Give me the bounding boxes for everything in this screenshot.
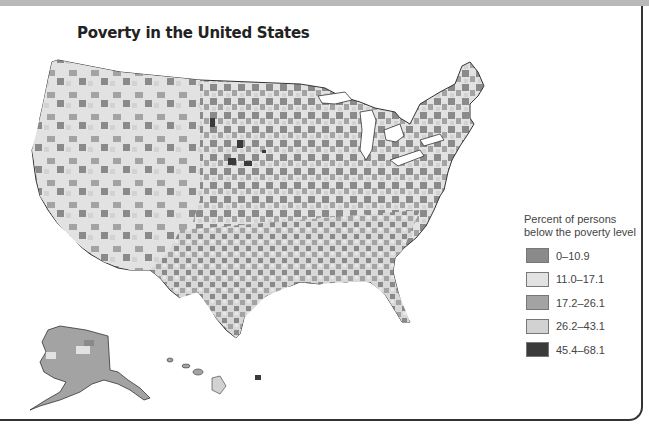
legend-swatch: [526, 272, 549, 287]
us-poverty-map: [0, 40, 520, 430]
legend-item: 26.2–43.1: [526, 318, 641, 335]
legend-item: 45.4–68.1: [526, 341, 641, 358]
legend: Percent of persons below the poverty lev…: [526, 213, 641, 365]
legend-swatch: [526, 342, 549, 357]
legend-item: 11.0–17.1: [526, 271, 641, 288]
legend-label: 45.4–68.1: [556, 344, 605, 356]
legend-label: 0–10.9: [556, 250, 590, 262]
legend-label: 17.2–26.1: [556, 297, 605, 309]
hawaii: [167, 358, 226, 394]
alaska: [30, 326, 150, 410]
legend-swatch: [526, 319, 549, 334]
legend-item: 17.2–26.1: [526, 294, 641, 311]
legend-swatch: [526, 295, 549, 310]
legend-title-line1: Percent of persons: [524, 213, 641, 226]
legend-label: 26.2–43.1: [556, 320, 605, 332]
legend-item: 0–10.9: [526, 247, 641, 264]
contiguous-us: [32, 60, 484, 380]
legend-label: 11.0–17.1: [556, 273, 604, 285]
legend-title-line2: below the poverty level: [524, 226, 641, 239]
legend-swatch: [526, 248, 549, 263]
legend-title: Percent of persons below the poverty lev…: [524, 213, 641, 239]
